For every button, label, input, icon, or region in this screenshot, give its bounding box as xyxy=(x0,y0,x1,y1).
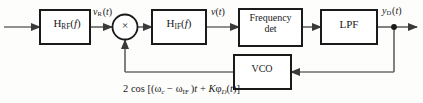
diagram-canvas xyxy=(0,0,423,103)
vco-box xyxy=(234,55,291,89)
block-outlines xyxy=(40,9,377,89)
rf-filter-box xyxy=(40,10,90,44)
lpf-box xyxy=(321,10,377,44)
output-junction-dot xyxy=(391,24,397,30)
mixer-circle xyxy=(113,15,138,40)
block-diagram: HRF(f) × HIF(f) Frequency det LPF VCO vR… xyxy=(0,0,423,103)
if-filter-box xyxy=(152,10,206,44)
freq-det-box xyxy=(239,9,302,46)
